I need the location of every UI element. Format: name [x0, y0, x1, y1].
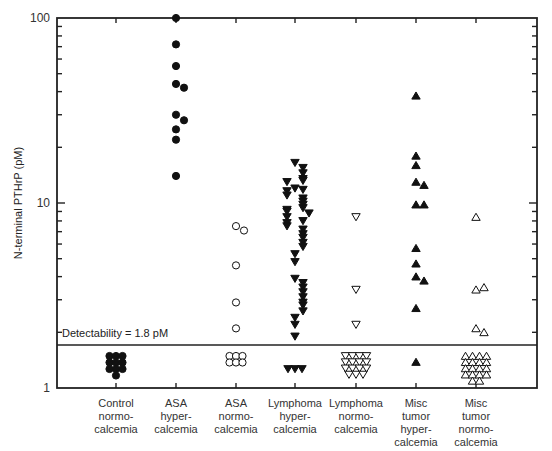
x-category-label: Controlnormo-calcemia	[94, 397, 138, 435]
data-point	[172, 172, 179, 179]
data-point	[412, 260, 420, 267]
data-point	[232, 325, 239, 332]
data-point	[112, 372, 119, 379]
data-point	[480, 329, 488, 336]
y-axis-ticks	[57, 26, 537, 332]
data-point	[180, 117, 187, 124]
data-point	[180, 84, 187, 91]
data-point	[352, 214, 360, 221]
data-point	[299, 243, 307, 250]
data-point	[291, 314, 299, 321]
scatter-chart: N-terminal PTHrP (pM) 1 10 100 Detectabi…	[0, 0, 552, 451]
data-point	[412, 178, 420, 185]
data-point	[420, 201, 428, 208]
data-point	[420, 181, 428, 188]
x-axis-ticks	[116, 18, 476, 388]
x-category-label: Lymphomahyper-calcemia	[268, 397, 323, 435]
x-category-label: ASAnormo-calcemia	[214, 397, 258, 435]
data-point	[352, 321, 360, 328]
data-point	[291, 185, 299, 192]
x-category-label: Misctumorhyper-calcemia	[394, 397, 438, 448]
data-point	[352, 286, 360, 293]
data-point	[283, 223, 291, 230]
data-point	[172, 111, 179, 118]
data-point	[359, 371, 367, 378]
category-labels: Controlnormo-calcemiaASAhyper-calcemiaAS…	[94, 397, 498, 448]
data-point	[480, 284, 488, 291]
data-point	[283, 179, 291, 186]
data-point	[412, 201, 420, 208]
x-category-label: Misctumornormo-calcemia	[454, 397, 498, 448]
data-point	[298, 366, 306, 373]
data-point	[299, 308, 307, 315]
x-category-label: Lymphomanormo-calcemia	[329, 397, 384, 435]
data-point	[412, 92, 420, 99]
data-point	[172, 14, 179, 21]
data-point	[305, 210, 313, 217]
data-point	[472, 213, 480, 220]
data-point	[232, 223, 239, 230]
data-point	[412, 161, 420, 168]
data-point	[119, 365, 126, 372]
data-point	[291, 251, 299, 258]
data-point	[299, 177, 307, 184]
data-point	[232, 299, 239, 306]
y-tick-label-10: 10	[37, 196, 51, 210]
data-point	[472, 325, 480, 332]
data-point	[239, 359, 246, 366]
data-point	[291, 275, 299, 282]
detectability-label: Detectability = 1.8 pM	[62, 327, 168, 339]
y-tick-label-100: 100	[30, 11, 50, 25]
y-tick-label-1: 1	[43, 381, 50, 395]
data-point	[420, 277, 428, 284]
data-point	[291, 259, 299, 266]
data-point	[291, 159, 299, 166]
data-point	[291, 321, 299, 328]
data-point	[412, 358, 420, 365]
data-point	[412, 304, 420, 311]
data-point	[172, 62, 179, 69]
data-point	[283, 192, 291, 199]
data-point	[291, 333, 299, 340]
data-point	[172, 136, 179, 143]
data-point	[412, 273, 420, 280]
y-axis-label: N-terminal PTHrP (pM)	[12, 147, 24, 259]
data-point	[412, 244, 420, 251]
data-point	[299, 218, 307, 225]
data-point	[299, 186, 307, 193]
data-point	[412, 152, 420, 159]
data-point	[172, 126, 179, 133]
x-category-label: ASAhyper-calcemia	[154, 397, 198, 435]
data-point	[172, 41, 179, 48]
data-point	[172, 80, 179, 87]
data-point	[232, 262, 239, 269]
data-point	[240, 227, 247, 234]
data-point	[472, 286, 480, 293]
